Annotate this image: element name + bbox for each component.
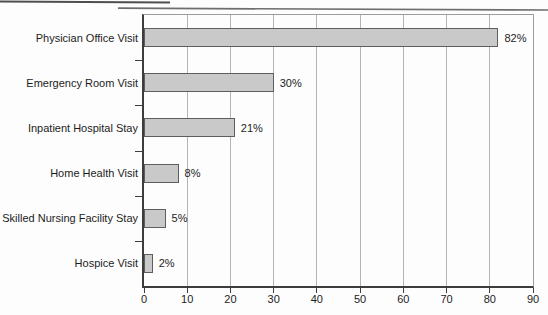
y-tick-mark [135, 105, 142, 106]
category-axis-labels: Physician Office VisitEmergency Room Vis… [0, 15, 138, 286]
bar-value-label: 21% [241, 105, 263, 150]
bar-5 [144, 209, 166, 228]
bar-value-label: 82% [504, 15, 526, 60]
x-tick-label: 20 [224, 293, 236, 305]
gridline-x-40 [316, 15, 317, 286]
bar-4 [144, 164, 179, 183]
bar-1 [144, 28, 498, 47]
x-tick-label: 70 [440, 293, 452, 305]
x-tick-label: 90 [527, 293, 539, 305]
y-tick-mark [135, 196, 142, 197]
x-tick-label: 0 [141, 293, 147, 305]
x-tick-label: 80 [484, 293, 496, 305]
gridline-x-70 [446, 15, 447, 286]
y-tick-mark [135, 151, 142, 152]
x-tick-label: 50 [354, 293, 366, 305]
plot-area: 82%30%21%8%5%2% [142, 14, 534, 288]
category-label: Home Health Visit [0, 151, 138, 196]
bar-2 [144, 73, 274, 92]
bar-6 [144, 254, 153, 273]
bar-3 [144, 118, 235, 137]
bar-chart-figure: 82%30%21%8%5%2% Physician Office VisitEm… [0, 0, 548, 315]
category-label: Skilled Nursing Facility Stay [0, 196, 138, 241]
gridline-x-30 [273, 15, 274, 286]
x-tick-label: 40 [311, 293, 323, 305]
x-tick-label: 10 [181, 293, 193, 305]
y-tick-mark [135, 60, 142, 61]
category-label: Hospice Visit [0, 241, 138, 286]
bar-value-label: 8% [185, 151, 201, 196]
category-label: Inpatient Hospital Stay [0, 105, 138, 150]
gridline-x-60 [403, 15, 404, 286]
gridline-x-80 [489, 15, 490, 286]
bar-value-label: 5% [172, 196, 188, 241]
x-tick-label: 30 [268, 293, 280, 305]
y-tick-mark [135, 241, 142, 242]
page-rule-line [0, 0, 548, 12]
category-label: Physician Office Visit [0, 15, 138, 60]
gridline-x-20 [230, 15, 231, 286]
gridline-x-50 [360, 15, 361, 286]
x-tick-label: 60 [397, 293, 409, 305]
bar-value-label: 2% [159, 241, 175, 286]
bar-value-label: 30% [280, 60, 302, 105]
category-label: Emergency Room Visit [0, 60, 138, 105]
